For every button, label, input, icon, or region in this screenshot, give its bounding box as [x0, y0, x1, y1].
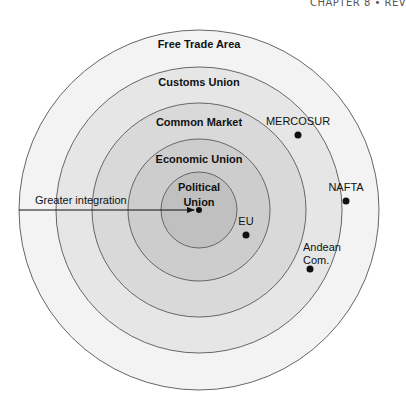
center-dot — [196, 207, 202, 213]
point-andean-com — [307, 266, 314, 273]
ring-label-political-union: Political — [178, 181, 220, 193]
point-label-andean-com: Andean — [303, 241, 341, 253]
point-mercosur — [295, 132, 302, 139]
arrow-label: Greater integration — [35, 194, 127, 206]
ring-label-political-union: Union — [183, 196, 214, 208]
ring-label-customs-union: Customs Union — [158, 76, 240, 88]
ring-label-common-market: Common Market — [156, 116, 243, 128]
point-label-mercosur: MERCOSUR — [266, 115, 330, 127]
point-label-andean-com: Com. — [303, 254, 329, 266]
ring-label-free-trade-area: Free Trade Area — [158, 38, 242, 50]
point-label-eu: EU — [238, 215, 253, 227]
point-eu — [243, 232, 250, 239]
point-label-nafta: NAFTA — [328, 181, 364, 193]
point-nafta — [343, 198, 350, 205]
ring-label-economic-union: Economic Union — [156, 153, 243, 165]
